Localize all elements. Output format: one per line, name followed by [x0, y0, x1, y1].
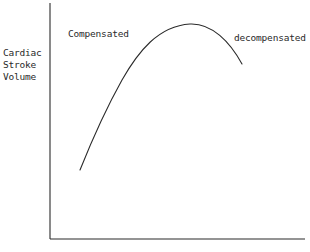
y-axis-label-line-3: Volume: [3, 71, 42, 83]
y-axis-label-line-2: Stroke: [3, 59, 42, 71]
stroke-volume-chart: Cardiac Stroke Volume Compensated decomp…: [0, 0, 310, 252]
stroke-volume-curve: [80, 24, 242, 170]
y-axis-label: Cardiac Stroke Volume: [3, 47, 42, 83]
compensated-annotation: Compensated: [68, 28, 129, 39]
y-axis-label-line-1: Cardiac: [3, 47, 42, 59]
decompensated-annotation: decompensated: [234, 32, 306, 43]
